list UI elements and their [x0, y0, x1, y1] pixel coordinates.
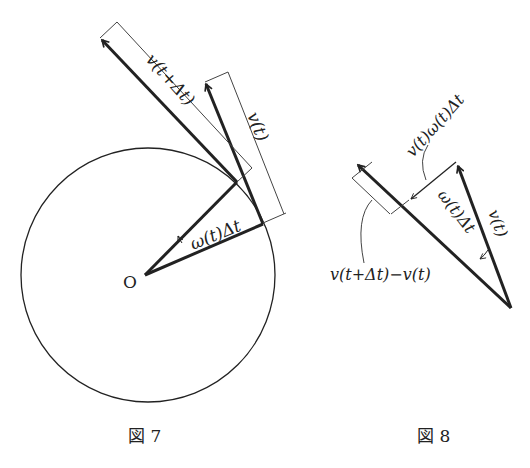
angle-arc-8 [480, 250, 488, 259]
label-angle: ω(t)Δt [187, 215, 244, 253]
leader-difference [361, 200, 372, 263]
vector-v-next-8 [358, 165, 511, 308]
caption-figure-8: 図 8 [417, 426, 450, 446]
dimension-v-next [100, 22, 252, 182]
label-angle-8: ω(t)Δt [434, 186, 480, 238]
caption-figure-7: 図 7 [128, 426, 161, 446]
vector-v-now-8 [458, 166, 511, 308]
label-v-next: v(t+Δt) [142, 49, 199, 109]
diagram-canvas: v(t+Δt) v(t) ω(t)Δt O 図 7 v(t)ω(t)Δt ω(t… [0, 0, 530, 468]
label-perp: v(t)ω(t)Δt [402, 90, 469, 161]
figure-7: v(t+Δt) v(t) ω(t)Δt O 図 7 [21, 22, 286, 446]
label-v-now: v(t) [243, 109, 273, 144]
label-v-now-8: v(t) [484, 207, 511, 240]
figure-8: v(t)ω(t)Δt ω(t)Δt v(t) v(t+Δt)−v(t) 図 8 [330, 90, 512, 446]
label-difference: v(t+Δt)−v(t) [330, 265, 431, 284]
label-center-o: O [123, 272, 137, 292]
